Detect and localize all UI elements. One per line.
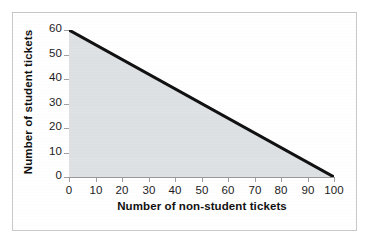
y-axis-title: Number of student tickets [22,22,34,182]
x-tick [281,178,282,182]
x-tick-label: 40 [160,184,190,196]
y-tick [64,128,69,129]
x-axis-title: Number of non-student tickets [69,200,335,212]
x-tick-label: 60 [213,184,243,196]
y-tick [64,177,69,178]
x-tick [122,178,123,182]
x-tick [228,178,229,182]
plot-area [69,30,334,177]
x-tick [334,178,335,182]
y-tick-label: 60 [38,22,62,34]
x-tick-label: 100 [319,184,349,196]
y-tick-label: 10 [38,145,62,157]
y-tick [64,153,69,154]
x-tick [96,178,97,182]
x-tick-label: 20 [107,184,137,196]
chart-figure: 0102030405060708090100 0102030405060 Num… [0,0,373,243]
y-tick [64,30,69,31]
y-tick-label: 30 [38,96,62,108]
y-tick-label: 40 [38,71,62,83]
y-tick [64,79,69,80]
x-tick [255,178,256,182]
x-tick [149,178,150,182]
y-tick-label: 50 [38,47,62,59]
x-tick [175,178,176,182]
x-tick [69,178,70,182]
x-tick-label: 0 [54,184,84,196]
y-tick [64,104,69,105]
x-tick [308,178,309,182]
y-tick-label: 20 [38,120,62,132]
x-tick-label: 80 [266,184,296,196]
plot-canvas [69,30,334,177]
x-tick [202,178,203,182]
y-tick [64,55,69,56]
y-tick-label: 0 [38,169,62,181]
